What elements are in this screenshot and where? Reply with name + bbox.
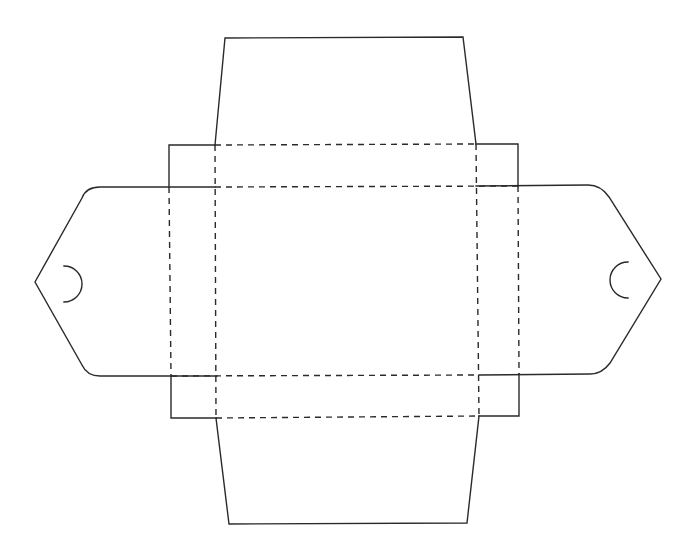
fold-line-top-inner (215, 186, 518, 187)
left-slit-semicircle (64, 266, 82, 302)
fold-line-right-inner (476, 144, 479, 416)
box-dieline-diagram (0, 0, 699, 559)
fold-line-left-outer (169, 187, 171, 376)
top-flap (215, 37, 476, 145)
fold-line-top-outer (215, 144, 476, 145)
right-tuck-tab (476, 185, 661, 375)
bottom-right-dust-flap (479, 374, 519, 416)
fold-line-right-outer (518, 186, 519, 374)
fold-line-bottom-outer (216, 416, 479, 418)
top-right-dust-flap (476, 144, 518, 186)
left-tuck-tab (35, 187, 217, 376)
right-slit-semicircle (610, 262, 628, 298)
fold-line-bottom-inner (171, 375, 479, 376)
bottom-left-dust-flap (171, 376, 216, 418)
bottom-flap (216, 416, 479, 524)
top-left-dust-flap (169, 145, 215, 187)
fold-line-left-inner (215, 145, 216, 418)
